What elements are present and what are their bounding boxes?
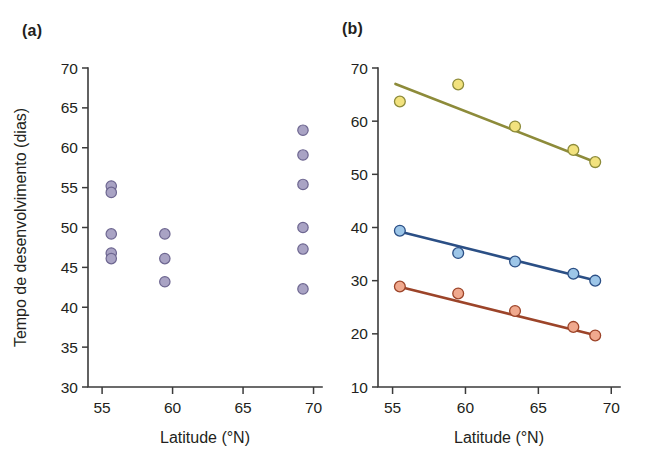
x-axis-title: Latitude (°N) [160,429,250,446]
data-point [298,125,308,135]
y-tick-label: 50 [61,219,79,236]
data-point [394,225,405,236]
data-point [160,253,170,263]
data-point [394,96,405,107]
y-tick-label: 60 [351,113,369,130]
data-point [510,121,521,132]
axis-spine [378,68,620,387]
data-point [453,248,464,259]
y-tick-label: 65 [61,99,78,116]
y-tick-label: 50 [351,166,369,183]
data-point [394,281,405,292]
x-tick-label: 65 [234,399,251,416]
data-point [298,244,308,254]
y-tick-label: 60 [61,139,79,156]
regression-line [398,287,596,336]
data-point [298,222,308,232]
x-tick-label: 55 [93,399,110,416]
y-tick-label: 70 [351,60,369,77]
data-point [590,157,601,168]
data-point [568,268,579,279]
x-axis-title: Latitude (°N) [454,429,544,446]
data-point [160,229,170,239]
y-tick-label: 55 [61,179,78,196]
data-point [510,256,521,267]
data-point [510,306,521,317]
data-point [106,253,116,263]
y-tick-label: 30 [61,379,79,396]
data-point [298,284,308,294]
data-point [298,150,308,160]
panel-a: (a) 30354045505560657055606570Latitude (… [0,0,330,456]
y-tick-label: 20 [351,325,369,342]
panel-b-plot: 1020304050607055606570Latitude (°N) [330,0,645,456]
panel-b: (b) 1020304050607055606570Latitude (°N) [330,0,645,456]
axis-spine [88,68,322,387]
regression-line [398,231,596,280]
data-point [453,79,464,90]
x-tick-label: 60 [457,399,475,416]
y-tick-label: 45 [61,259,78,276]
x-tick-label: 55 [384,399,401,416]
y-tick-label: 30 [351,272,369,289]
x-tick-label: 70 [603,399,621,416]
y-tick-label: 70 [61,60,79,77]
data-point [298,179,308,189]
data-point [160,277,170,287]
data-point [568,144,579,155]
y-axis-title: Tempo de desenvolvimento (dias) [12,108,29,347]
y-tick-label: 35 [61,339,78,356]
panel-a-plot: 30354045505560657055606570Latitude (°N)T… [0,0,330,456]
data-point [590,330,601,341]
x-tick-label: 65 [530,399,547,416]
data-point [106,187,116,197]
x-tick-label: 70 [305,399,323,416]
y-tick-label: 40 [61,299,79,316]
data-point [106,229,116,239]
y-tick-label: 10 [351,379,369,396]
data-point [568,322,579,333]
y-tick-label: 40 [351,219,369,236]
figure-root: (a) 30354045505560657055606570Latitude (… [0,0,645,456]
data-point [453,288,464,299]
data-point [590,275,601,286]
x-tick-label: 60 [164,399,182,416]
